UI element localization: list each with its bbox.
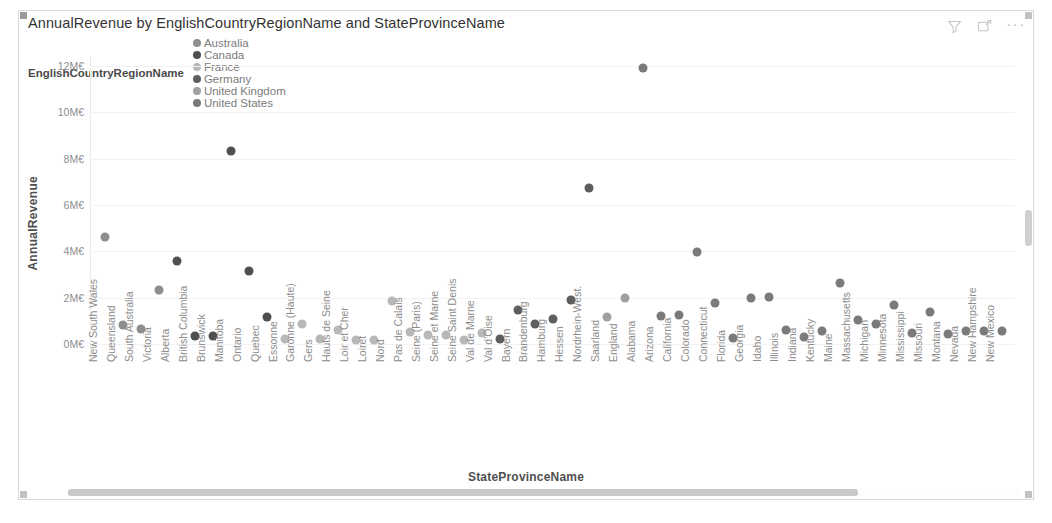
- scatter-point[interactable]: [710, 299, 719, 308]
- x-axis-tick-label: Indiana: [786, 328, 798, 362]
- x-axis-tick-label: Loiret: [356, 336, 368, 362]
- x-axis-tick-label: Missouri: [912, 323, 924, 362]
- gridline: [90, 205, 1015, 206]
- scatter-point[interactable]: [621, 293, 630, 302]
- scatter-point[interactable]: [226, 146, 235, 155]
- x-axis-tick-label: Hamburg: [535, 319, 547, 362]
- frame-corner-top-left: [20, 12, 27, 19]
- legend-marker-icon: [193, 39, 201, 47]
- x-axis-tick-label: Seine et Marne: [428, 291, 440, 362]
- y-axis-tick-label: 0M€: [64, 338, 84, 350]
- scatter-point[interactable]: [692, 247, 701, 256]
- scatter-point[interactable]: [997, 327, 1006, 336]
- scatter-point[interactable]: [925, 308, 934, 317]
- more-options-icon[interactable]: ···: [1006, 19, 1026, 35]
- x-axis-tick-label: Brandenburg: [517, 301, 529, 362]
- x-axis-tick-label: Seine (Paris): [410, 301, 422, 362]
- gridline: [90, 251, 1015, 252]
- scatter-point[interactable]: [101, 233, 110, 242]
- x-axis-tick-label: Michigan: [858, 320, 870, 362]
- x-axis-tick-label: Bayern: [500, 329, 512, 362]
- x-axis-tick-labels: New South WalesQueenslandSouth Australia…: [90, 359, 1015, 469]
- x-axis-tick-label: Nevada: [948, 326, 960, 362]
- horizontal-scrollbar-thumb[interactable]: [68, 489, 858, 496]
- visual-title: AnnualRevenue by EnglishCountryRegionNam…: [28, 15, 505, 31]
- x-axis-tick-label: Florida: [715, 330, 727, 362]
- focus-mode-icon[interactable]: [976, 18, 993, 35]
- legend-item-label: Australia: [204, 37, 249, 49]
- x-axis-tick-label: New Hampshire: [966, 287, 978, 362]
- x-axis-tick-label: Georgia: [733, 325, 745, 362]
- x-axis-tick-label: Alabama: [625, 321, 637, 362]
- x-axis-tick-label: Connecticut: [697, 307, 709, 362]
- scatter-point[interactable]: [244, 267, 253, 276]
- horizontal-scrollbar[interactable]: [68, 489, 1020, 496]
- scatter-point[interactable]: [764, 293, 773, 302]
- x-axis-tick-label: Maine: [822, 333, 834, 362]
- x-axis-tick-label: Brunswick: [195, 314, 207, 362]
- x-axis-tick-label: Victoria: [141, 327, 153, 362]
- vertical-scrollbar-thumb[interactable]: [1025, 210, 1032, 246]
- x-axis-tick-label: Pas de Calais: [392, 297, 404, 362]
- x-axis-tick-label: British Columbia: [177, 286, 189, 362]
- x-axis-tick-label: Nord: [374, 339, 386, 362]
- scatter-point[interactable]: [155, 285, 164, 294]
- vertical-scrollbar[interactable]: [1025, 210, 1032, 330]
- x-axis-tick-label: Nordrhein-West.: [571, 286, 583, 362]
- powerbi-scatter-visual: AnnualRevenue by EnglishCountryRegionNam…: [18, 10, 1034, 500]
- x-axis-tick-label: Val d'Oise: [482, 315, 494, 362]
- x-axis-tick-label: Massachusetts: [840, 292, 852, 362]
- x-axis-tick-label: Queensland: [105, 305, 117, 362]
- x-axis-tick-label: Saarland: [589, 320, 601, 362]
- x-axis-tick-label: Val de Marne: [464, 300, 476, 362]
- x-axis-tick-label: Hessen: [553, 326, 565, 362]
- scatter-point[interactable]: [674, 310, 683, 319]
- y-axis-tick-labels: 0M€2M€4M€6M€8M€10M€12M€: [42, 56, 88, 356]
- y-axis-tick-label: 4M€: [64, 245, 84, 257]
- x-axis-tick-label: South Australia: [123, 291, 135, 362]
- scatter-point[interactable]: [585, 183, 594, 192]
- filter-icon[interactable]: [946, 18, 963, 35]
- scatter-point[interactable]: [889, 301, 898, 310]
- x-axis-tick-label: Colorado: [679, 319, 691, 362]
- x-axis-tick-label: Ontario: [231, 328, 243, 362]
- frame-corner-top-right: [1025, 12, 1032, 19]
- gridline: [90, 298, 1015, 299]
- x-axis-tick-label: Hauts de Seine: [320, 290, 332, 362]
- x-axis-tick-label: Seine Saint Denis: [446, 279, 458, 362]
- y-axis-tick-label: 2M€: [64, 292, 84, 304]
- scatter-point[interactable]: [639, 64, 648, 73]
- x-axis-tick-label: New South Wales: [87, 279, 99, 362]
- x-axis-tick-label: Arizona: [643, 326, 655, 362]
- x-axis-tick-label: England: [607, 323, 619, 362]
- legend-item[interactable]: Australia: [193, 37, 286, 49]
- x-axis-tick-label: Garonne (Haute): [284, 283, 296, 362]
- x-axis-tick-label: Gers: [302, 339, 314, 362]
- x-axis-tick-label: New Mexico: [984, 305, 996, 362]
- y-axis-tick-label: 12M€: [58, 60, 84, 72]
- x-axis-tick-label: Kentucky: [804, 319, 816, 362]
- scatter-point[interactable]: [836, 279, 845, 288]
- scatter-point[interactable]: [746, 294, 755, 303]
- scatter-point[interactable]: [549, 314, 558, 323]
- x-axis-tick-label: Alberta: [159, 329, 171, 362]
- y-axis-title: AnnualRevenue: [26, 176, 42, 271]
- scatter-point[interactable]: [603, 313, 612, 322]
- x-axis-tick-label: Essonne: [267, 321, 279, 362]
- x-axis-tick-label: Quebec: [249, 325, 261, 362]
- x-axis-tick-label: Manitoba: [213, 319, 225, 362]
- x-axis-tick-label: Illinois: [768, 333, 780, 362]
- scatter-point[interactable]: [172, 257, 181, 266]
- x-axis-tick-label: Idaho: [751, 336, 763, 362]
- gridline: [90, 112, 1015, 113]
- x-axis-tick-label: Minnesota: [876, 314, 888, 362]
- x-axis-tick-label: California: [661, 318, 673, 362]
- x-axis-title: StateProvinceName: [18, 470, 1034, 484]
- gridline: [90, 66, 1015, 67]
- x-axis-tick-label: Loir et Cher: [338, 307, 350, 362]
- plot-area-wrapper: AnnualRevenue 0M€2M€4M€6M€8M€10M€12M€ Ne…: [18, 56, 1034, 500]
- scatter-point[interactable]: [298, 319, 307, 328]
- visual-header-actions: ···: [946, 18, 1026, 35]
- x-axis-tick-label: Montana: [930, 321, 942, 362]
- y-axis-tick-label: 6M€: [64, 199, 84, 211]
